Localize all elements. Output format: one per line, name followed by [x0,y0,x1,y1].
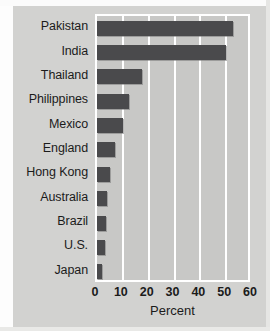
bar [97,264,102,279]
y-axis-label: U.S. [64,233,88,257]
y-axis-label: Thailand [41,63,88,87]
bar [97,21,233,36]
bar-row [97,235,252,259]
y-axis-label: Brazil [57,209,88,233]
y-axis-label: Japan [54,258,88,282]
bar-row [97,16,252,40]
bar [97,240,105,255]
bar [97,69,142,84]
bar-row [97,162,252,186]
x-axis-tick-labels: 0102030405060 [95,285,250,301]
bar-row [97,40,252,64]
y-axis-label: England [43,136,88,160]
x-axis-tick-10: 10 [114,285,128,299]
bar-series [97,16,248,280]
page-margin-top [0,0,270,6]
bar [97,94,129,109]
bar-row [97,138,252,162]
plot-area [95,14,250,282]
page-margin-bottom [0,327,270,331]
bar [97,45,226,60]
x-axis-tick-0: 0 [92,285,99,299]
bar-row [97,65,252,89]
y-axis-label: India [61,38,88,62]
bar [97,142,115,157]
y-axis-label: Pakistan [41,14,88,38]
bar-row [97,260,252,284]
y-axis-label: Hong Kong [26,160,88,184]
bar-row [97,89,252,113]
bar-row [97,187,252,211]
y-axis-category-labels: PakistanIndiaThailandPhilippinesMexicoEn… [0,14,92,282]
y-axis-label: Philippines [29,87,88,111]
bar [97,118,123,133]
page-margin-right [266,0,270,331]
x-axis-tick-50: 50 [217,285,231,299]
bar-row [97,211,252,235]
x-axis-tick-20: 20 [140,285,154,299]
x-axis-tick-40: 40 [191,285,205,299]
bar [97,167,110,182]
x-axis-tick-30: 30 [166,285,180,299]
x-axis-tick-60: 60 [243,285,257,299]
x-axis-title: Percent [95,303,250,318]
bar [97,191,107,206]
y-axis-label: Mexico [49,111,88,135]
figure-container: PakistanIndiaThailandPhilippinesMexicoEn… [0,0,270,331]
bar-row [97,113,252,137]
y-axis-label: Australia [40,185,88,209]
bar [97,216,106,231]
